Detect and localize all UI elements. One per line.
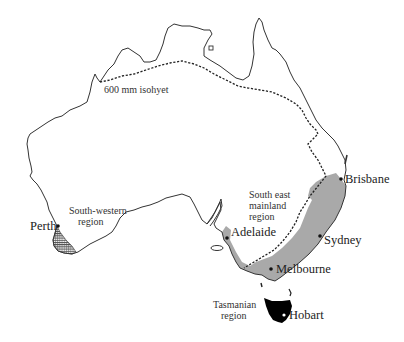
city-label-adelaide: Adelaide xyxy=(231,225,277,239)
hobart-marker-icon xyxy=(282,313,285,316)
region-label-tasmanian-1: Tasmanian xyxy=(213,299,256,310)
tasmania xyxy=(264,298,292,323)
city-label-hobart: Hobart xyxy=(289,308,324,322)
city-label-perth: Perth xyxy=(30,219,57,233)
city-label-sydney: Sydney xyxy=(324,233,362,247)
perth-marker-icon xyxy=(56,224,60,228)
australia-map: 600 mm isohyet Perth Adelaide Melbourne … xyxy=(0,0,404,342)
region-label-south-east-2: mainland xyxy=(249,200,286,211)
region-label-tasmanian-2: region xyxy=(221,310,247,321)
brisbane-marker-icon xyxy=(339,177,343,181)
isohyet-label: 600 mm isohyet xyxy=(104,84,169,95)
region-label-south-western-1: South-western xyxy=(69,205,127,216)
region-label-south-western-2: region xyxy=(78,216,104,227)
fraser-island xyxy=(345,155,347,164)
flinders-island xyxy=(289,289,291,296)
kangaroo-island xyxy=(211,246,223,251)
city-label-melbourne: Melbourne xyxy=(276,262,331,276)
region-label-south-east-3: region xyxy=(249,211,275,222)
melbourne-marker-icon xyxy=(269,267,273,271)
adelaide-marker-icon xyxy=(225,236,229,240)
city-label-brisbane: Brisbane xyxy=(345,172,390,186)
king-island xyxy=(261,283,262,287)
region-label-south-east-1: South east xyxy=(249,189,291,200)
groote-eylandt xyxy=(209,46,213,50)
sydney-marker-icon xyxy=(318,234,322,238)
